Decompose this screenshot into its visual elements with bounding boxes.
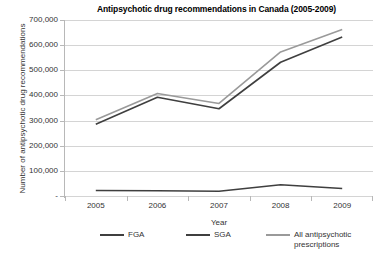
y-tick-label: 100,000: [2, 166, 58, 175]
series-lines: [65, 20, 373, 196]
y-tick-label: 500,000: [2, 65, 58, 74]
x-tick-label: 2007: [196, 201, 242, 210]
x-tick-mark: [311, 196, 312, 201]
series-line-fga: [96, 185, 342, 192]
gridline: [65, 196, 373, 197]
chart-legend: FGASGAAll antipsychotic prescriptions: [100, 230, 362, 254]
y-tick-label: 400,000: [2, 90, 58, 99]
legend-label: All antipsychotic prescriptions: [294, 230, 351, 249]
x-axis-title: Year: [65, 218, 373, 227]
series-line-sga: [96, 37, 342, 124]
chart-figure: Antipsychotic drug recommendations in Ca…: [0, 0, 377, 257]
legend-entry[interactable]: All antipsychotic prescriptions: [266, 230, 351, 249]
x-tick-mark: [65, 196, 66, 201]
x-tick-label: 2006: [134, 201, 180, 210]
y-tick-label: 300,000: [2, 116, 58, 125]
x-tick-mark: [250, 196, 251, 201]
x-tick-mark: [127, 196, 128, 201]
y-tick-label: 600,000: [2, 40, 58, 49]
x-tick-label: 2005: [73, 201, 119, 210]
series-line-all-antipsychotic: [96, 30, 342, 120]
legend-entry[interactable]: FGA: [100, 230, 144, 240]
y-tick-label: 200,000: [2, 141, 58, 150]
x-tick-mark: [188, 196, 189, 201]
x-tick-label: 2008: [258, 201, 304, 210]
y-tick-label: 700,000: [2, 15, 58, 24]
plot-area: [65, 20, 373, 196]
legend-label: FGA: [128, 230, 144, 240]
legend-swatch-icon: [266, 230, 290, 239]
legend-label: SGA: [214, 230, 231, 240]
y-tick-label: -: [2, 191, 58, 200]
legend-swatch-icon: [186, 230, 210, 239]
legend-swatch-icon: [100, 230, 124, 239]
x-tick-mark: [372, 196, 373, 201]
x-tick-label: 2009: [319, 201, 365, 210]
legend-entry[interactable]: SGA: [186, 230, 231, 240]
chart-title: Antipsychotic drug recommendations in Ca…: [60, 4, 373, 14]
